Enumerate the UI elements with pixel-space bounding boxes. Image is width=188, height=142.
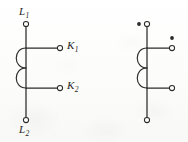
terminal-k2[interactable]: [57, 85, 62, 90]
left-circuit: [16, 21, 62, 122]
terminal-right-branch-1[interactable]: [169, 45, 174, 50]
polarity-dot-secondary-icon: [170, 36, 174, 40]
label-l2: L2: [19, 124, 29, 135]
right-coil-turn-lower: [137, 68, 147, 88]
left-coil-turn-lower: [16, 68, 26, 88]
label-k1-subscript: 1: [75, 45, 79, 54]
right-circuit: [137, 21, 174, 122]
terminal-l2[interactable]: [23, 117, 28, 122]
label-l2-subscript: 2: [25, 129, 29, 138]
figure-canvas: L1 K1 K2 L2: [0, 0, 188, 142]
label-k2-subscript: 2: [75, 85, 79, 94]
terminal-right-branch-2[interactable]: [169, 85, 174, 90]
right-coil-turn-upper: [137, 48, 147, 68]
label-k2: K2: [67, 80, 78, 91]
terminal-right-top[interactable]: [144, 21, 149, 26]
polarity-dot-primary-icon: [137, 22, 141, 26]
circuit-diagram: [0, 0, 188, 142]
terminal-right-bottom[interactable]: [144, 117, 149, 122]
label-l1: L1: [19, 6, 29, 17]
label-k1-base: K: [67, 39, 74, 51]
label-l1-subscript: 1: [25, 11, 29, 20]
label-k2-base: K: [67, 79, 74, 91]
terminal-k1[interactable]: [57, 45, 62, 50]
left-coil-turn-upper: [16, 48, 26, 68]
label-k1: K1: [67, 40, 78, 51]
terminal-l1[interactable]: [23, 21, 28, 26]
